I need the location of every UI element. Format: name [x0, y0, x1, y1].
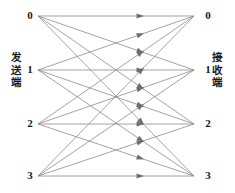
left-node-label-0: 0: [24, 10, 36, 21]
transmitter-caption-char-1: 发: [9, 51, 23, 64]
bipartite-channel-diagram: 0123 0123 发送端 接收端: [0, 0, 235, 193]
arrowhead-3-to-3: [137, 173, 145, 178]
left-node-label-2: 2: [24, 118, 36, 129]
right-node-label-2: 2: [202, 118, 214, 129]
receiver-caption-char-1: 接: [210, 51, 224, 64]
right-node-label-3: 3: [202, 170, 214, 181]
left-node-label-3: 3: [24, 170, 36, 181]
transmitter-caption-char-2: 送: [9, 64, 23, 77]
left-node-label-1: 1: [24, 64, 36, 75]
transmitter-caption: 发送端: [9, 51, 23, 89]
receiver-caption: 接收端: [210, 51, 224, 89]
arrowhead-layer: [136, 13, 146, 178]
receiver-caption-char-2: 收: [210, 64, 224, 77]
edge-layer: [38, 16, 194, 176]
right-node-label-0: 0: [202, 10, 214, 21]
graph-canvas: [0, 0, 235, 193]
arrowhead-2-to-3: [136, 155, 145, 162]
transmitter-caption-char-3: 端: [9, 76, 23, 89]
arrowhead-0-to-0: [137, 13, 145, 18]
receiver-caption-char-3: 端: [210, 76, 224, 89]
arrowhead-1-to-0: [136, 31, 145, 38]
